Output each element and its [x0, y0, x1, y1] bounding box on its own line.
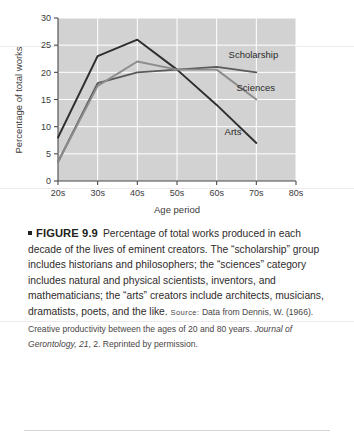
y-tick-label: 25 — [41, 40, 51, 50]
chart-figure: 051015202530 20s30s40s50s60s70s80s Schol… — [0, 0, 354, 222]
x-axis-title: Age period — [154, 204, 200, 215]
x-tick-label: 50s — [170, 188, 185, 198]
figure-caption: FIGURE 9.9Percentage of total works prod… — [28, 226, 328, 352]
y-axis-tick-labels: 051015202530 — [41, 13, 51, 186]
x-axis-ticks — [58, 181, 296, 185]
square-bullet-icon — [28, 231, 32, 235]
figure-page: 051015202530 20s30s40s50s60s70s80s Schol… — [0, 0, 354, 446]
caption-body: Percentage of total works produced in ea… — [28, 228, 324, 317]
y-tick-label: 10 — [41, 122, 51, 132]
y-tick-label: 5 — [46, 149, 51, 159]
source-text-trailing: , 2. Reprinted by permission. — [89, 339, 198, 349]
y-tick-label: 0 — [46, 176, 51, 186]
series-label-scholarship: Scholarship — [229, 49, 279, 60]
series-label-arts: Arts — [225, 126, 242, 137]
x-tick-label: 20s — [51, 188, 66, 198]
x-tick-label: 30s — [90, 188, 105, 198]
caption-text-block: FIGURE 9.9Percentage of total works prod… — [28, 226, 328, 352]
y-axis-title: Percentage of total works — [13, 46, 24, 153]
page-bottom-rule — [24, 430, 330, 431]
y-tick-label: 15 — [41, 95, 51, 105]
x-tick-label: 80s — [289, 188, 304, 198]
x-tick-label: 70s — [249, 188, 264, 198]
x-tick-label: 40s — [130, 188, 145, 198]
y-tick-label: 30 — [41, 13, 51, 23]
y-tick-label: 20 — [41, 68, 51, 78]
series-label-sciences: Sciences — [237, 82, 276, 93]
y-axis-ticks — [54, 18, 58, 181]
source-label: Source: — [171, 308, 200, 317]
line-chart: 051015202530 20s30s40s50s60s70s80s Schol… — [0, 0, 354, 222]
x-axis-tick-labels: 20s30s40s50s60s70s80s — [51, 188, 304, 198]
figure-label: FIGURE 9.9 — [36, 227, 98, 239]
x-tick-label: 60s — [209, 188, 224, 198]
